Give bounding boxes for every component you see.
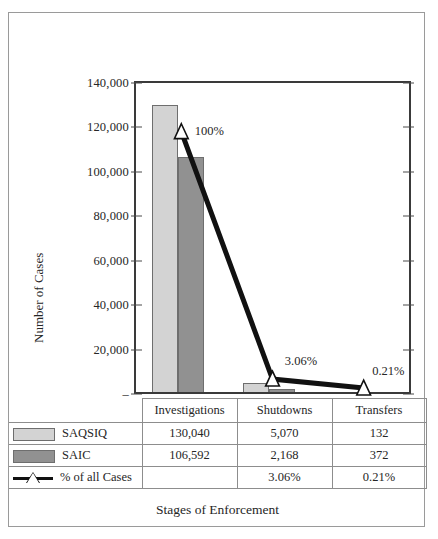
y-tick-label-60000: 60,000 — [93, 253, 129, 268]
y-tick-label-140000: 140,000 — [87, 76, 129, 91]
table-header-row: Investigations Shutdowns Transfers — [9, 399, 426, 423]
chart-area: Number of Cases – 20,000 40,000 60,000 8… — [9, 13, 426, 398]
legend-swatch-saqsiq — [13, 428, 55, 441]
percent-line-path — [181, 132, 363, 388]
header-blank — [9, 399, 142, 423]
x-axis-title: Stages of Enforcement — [9, 502, 426, 518]
legend-row-percent: % of all Cases — [9, 467, 142, 489]
triangle-icon — [27, 473, 39, 483]
legend-swatch-percent — [13, 473, 53, 484]
data-label-transfers: 0.21% — [372, 363, 404, 378]
y-tick-label-100000: 100,000 — [87, 164, 129, 179]
legend-label-saic: SAIC — [62, 448, 90, 462]
cell-saqsiq-transfers: 132 — [332, 423, 426, 445]
header-transfers: Transfers — [332, 399, 426, 423]
percent-line-series — [136, 83, 409, 394]
legend-label-saqsiq: SAQSIQ — [62, 426, 107, 440]
marker-triangle-investigations — [174, 124, 188, 139]
cell-saqsiq-investigations: 130,040 — [142, 423, 237, 445]
data-table: Investigations Shutdowns Transfers SAQSI… — [9, 398, 426, 518]
legend-swatch-saic — [13, 450, 55, 463]
legend-label-percent: % of all Cases — [60, 470, 132, 484]
header-shutdowns: Shutdowns — [237, 399, 332, 423]
y-tick-label-40000: 40,000 — [93, 298, 129, 313]
header-investigations: Investigations — [142, 399, 237, 423]
cell-saic-transfers: 372 — [332, 445, 426, 467]
cell-percent-investigations — [142, 467, 237, 489]
cell-saic-investigations: 106,592 — [142, 445, 237, 467]
table-row: % of all Cases 3.06% 0.21% — [9, 467, 426, 489]
table-row: SAQSIQ 130,040 5,070 132 — [9, 423, 426, 445]
figure-frame: Number of Cases – 20,000 40,000 60,000 8… — [8, 12, 425, 527]
cell-saic-shutdowns: 2,168 — [237, 445, 332, 467]
y-axis-title: Number of Cases — [31, 253, 47, 343]
cell-saqsiq-shutdowns: 5,070 — [237, 423, 332, 445]
table-row: SAIC 106,592 2,168 372 — [9, 445, 426, 467]
data-label-shutdowns: 3.06% — [285, 354, 317, 369]
data-label-investigations: 100% — [195, 124, 224, 139]
cell-percent-transfers: 0.21% — [332, 467, 426, 489]
legend-row-saic: SAIC — [9, 445, 142, 467]
cell-percent-shutdowns: 3.06% — [237, 467, 332, 489]
legend-row-saqsiq: SAQSIQ — [9, 423, 142, 445]
y-tick-label-120000: 120,000 — [87, 120, 129, 135]
y-tick-label-80000: 80,000 — [93, 209, 129, 224]
y-tick-label-20000: 20,000 — [93, 342, 129, 357]
plot-area: – 20,000 40,000 60,000 80,000 100,000 12… — [134, 81, 411, 394]
